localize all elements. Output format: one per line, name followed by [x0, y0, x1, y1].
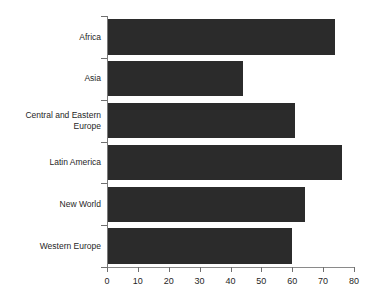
bar: [107, 103, 295, 138]
x-axis-tick-label: 20: [154, 276, 184, 286]
category-label-text: Asia: [84, 73, 101, 84]
bar: [107, 61, 243, 96]
y-axis-tick: [101, 142, 107, 143]
x-axis-tick: [323, 267, 324, 272]
y-axis-tick: [101, 58, 107, 59]
y-axis-line: [107, 16, 108, 267]
category-label: Western Europe: [0, 225, 101, 267]
x-axis-tick: [354, 267, 355, 272]
plot-area: [107, 16, 354, 267]
x-axis-tick-label: 0: [92, 276, 122, 286]
y-axis-tick: [101, 100, 107, 101]
x-axis-tick-label: 30: [185, 276, 215, 286]
x-axis-tick-label: 60: [277, 276, 307, 286]
y-axis-tick: [101, 16, 107, 17]
x-axis-tick: [292, 267, 293, 272]
category-label: Asia: [0, 58, 101, 100]
x-axis-tick: [138, 267, 139, 272]
y-axis-tick: [101, 183, 107, 184]
x-axis-tick-label: 80: [339, 276, 369, 286]
category-label-text: Central and Eastern Europe: [0, 110, 101, 131]
x-axis-tick: [107, 267, 108, 272]
bar: [107, 187, 305, 222]
category-label: Central and Eastern Europe: [0, 100, 101, 142]
category-label-text: Western Europe: [40, 241, 101, 252]
category-label-text: Latin America: [50, 157, 102, 168]
x-axis-tick: [231, 267, 232, 272]
bar: [107, 19, 335, 54]
y-axis-tick: [101, 225, 107, 226]
x-axis-tick-label: 70: [308, 276, 338, 286]
category-label: New World: [0, 183, 101, 225]
x-axis-tick: [200, 267, 201, 272]
category-label-text: New World: [60, 199, 101, 210]
x-axis-tick-label: 10: [123, 276, 153, 286]
x-axis-tick: [261, 267, 262, 272]
category-label: Latin America: [0, 142, 101, 184]
category-label-text: Africa: [79, 32, 101, 43]
x-axis-tick-label: 50: [246, 276, 276, 286]
bar-chart: AfricaAsiaCentral and Eastern EuropeLati…: [0, 0, 380, 301]
x-axis-tick-label: 40: [216, 276, 246, 286]
bar: [107, 228, 292, 263]
bar: [107, 145, 342, 180]
category-label: Africa: [0, 16, 101, 58]
x-axis-tick: [169, 267, 170, 272]
